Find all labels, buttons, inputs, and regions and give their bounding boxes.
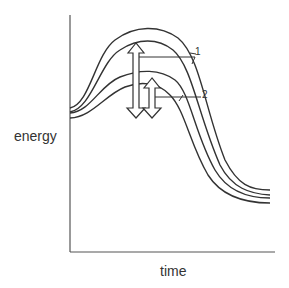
leader-2-tick — [179, 95, 183, 101]
x-axis-label: time — [160, 263, 186, 279]
callout-label-1: 1 — [195, 46, 201, 57]
y-axis-label: energy — [14, 128, 57, 144]
callout-label-2: 2 — [202, 89, 208, 100]
upper-curve-inner — [70, 41, 270, 195]
arrow-1-icon — [127, 43, 145, 118]
lower-curve-outer — [70, 71, 270, 198]
energy-diagram: 1 2 energy time — [0, 0, 289, 288]
axes — [70, 15, 275, 252]
leader-1 — [139, 57, 195, 64]
upper-curve-outer — [70, 28, 270, 190]
lower-curve-inner — [70, 83, 270, 203]
curves — [70, 28, 270, 203]
